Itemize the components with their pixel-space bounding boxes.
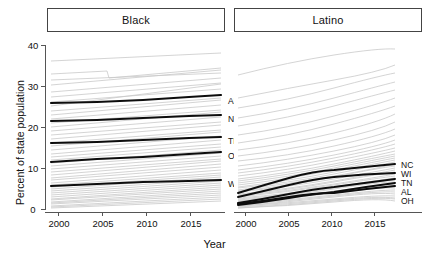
x-axis-line-black [45, 212, 225, 213]
x-tick-label-black-2005: 2005 [88, 218, 118, 229]
panel-latino [234, 40, 399, 212]
line-NC [51, 115, 221, 121]
x-tick-mark-latino-2005 [288, 212, 289, 216]
x-tick-label-black-2000: 2000 [44, 218, 74, 229]
x-tick-mark-black-2000 [58, 212, 59, 216]
x-tick-mark-black-2010 [146, 212, 147, 216]
x-tick-mark-latino-2010 [331, 212, 332, 216]
x-tick-label-latino-2010: 2010 [317, 218, 347, 229]
line-AL [51, 95, 221, 103]
x-tick-mark-latino-2000 [245, 212, 246, 216]
y-axis-line [45, 45, 46, 210]
facet-strip-black-label: Black [122, 14, 150, 26]
y-tick-mark-30 [41, 86, 45, 87]
y-tick-label-20: 20 [24, 122, 42, 133]
panel-black [47, 40, 225, 212]
latino-background-lines [238, 49, 395, 208]
y-tick-label-30: 30 [24, 81, 42, 92]
x-tick-label-latino-2005: 2005 [274, 218, 304, 229]
panel-black-plot [47, 40, 225, 212]
x-tick-label-black-2015: 2015 [176, 218, 206, 229]
y-tick-label-10: 10 [24, 163, 42, 174]
y-tick-label-0: 0 [24, 204, 42, 215]
chart-figure: Black Latino Percent of state population… [0, 0, 429, 274]
facet-strip-black: Black [47, 8, 225, 32]
x-tick-label-latino-2015: 2015 [360, 218, 390, 229]
x-tick-mark-latino-2015 [374, 212, 375, 216]
x-tick-mark-black-2015 [190, 212, 191, 216]
x-axis-title: Year [0, 238, 429, 250]
facet-strip-latino: Latino [234, 8, 422, 32]
y-axis-title: Percent of state population [14, 80, 26, 205]
x-axis-line-latino [234, 212, 422, 213]
y-tick-mark-20 [41, 127, 45, 128]
y-tick-label-40: 40 [24, 40, 42, 51]
y-tick-mark-10 [41, 168, 45, 169]
x-tick-mark-black-2005 [102, 212, 103, 216]
y-tick-mark-40 [41, 45, 45, 46]
x-tick-label-black-2010: 2010 [132, 218, 162, 229]
y-tick-mark-0 [41, 209, 45, 210]
series-label-latino-OH: OH [401, 197, 414, 206]
panel-latino-plot [234, 40, 399, 212]
x-tick-label-latino-2000: 2000 [231, 218, 261, 229]
facet-strip-latino-label: Latino [312, 14, 343, 26]
